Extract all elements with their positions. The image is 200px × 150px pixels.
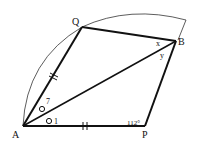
label-B: B	[178, 36, 185, 47]
angle-label-P: 112°	[127, 119, 140, 127]
angle-label-BAP: 1	[54, 117, 58, 126]
angle-label-x: x	[156, 39, 160, 48]
angle-mark-BAP	[46, 118, 51, 123]
angle-mark-QAB	[39, 106, 44, 111]
segment-QB	[82, 27, 176, 41]
label-P: P	[142, 129, 148, 140]
diagonal-AB	[23, 41, 176, 126]
label-A: A	[12, 129, 20, 140]
angle-label-QAB: 7	[46, 97, 50, 106]
angle-label-y: y	[160, 51, 164, 60]
geometry-diagram: A Q B P 112° x y 7 1	[0, 0, 200, 150]
label-Q: Q	[72, 16, 80, 27]
segment-AQ	[23, 27, 82, 126]
